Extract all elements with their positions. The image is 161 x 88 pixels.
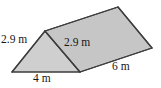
triangular-prism-figure: 2.9 m 2.9 m 4 m 6 m	[0, 0, 161, 88]
dimension-label-depth-right: 6 m	[112, 60, 130, 72]
dimension-label-mid-slant: 2.9 m	[64, 36, 90, 48]
dimension-label-base-front: 4 m	[33, 72, 51, 84]
dimension-label-left-slant: 2.9 m	[1, 33, 27, 45]
